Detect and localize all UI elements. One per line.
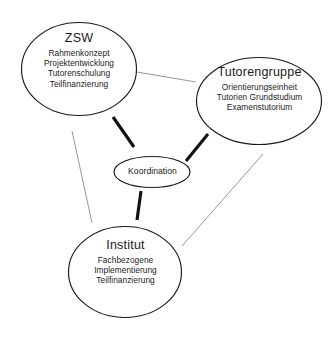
node-koordination[interactable]: Koordination [114, 166, 191, 176]
node-zsw-detail-3: Tutorenschulung [22, 68, 136, 78]
node-institut[interactable]: Institut Fachbezogene Implementierung Te… [68, 238, 183, 286]
node-tutorengruppe[interactable]: Tutorengruppe Orientierungseinheit Tutor… [196, 65, 323, 113]
node-zsw-detail-1: Rahmenkonzept [22, 48, 136, 58]
node-institut-details: Fachbezogene Implementierung Teilfinanzi… [68, 255, 183, 286]
node-institut-detail-3: Teilfinanzierung [68, 275, 183, 285]
node-institut-detail-1: Fachbezogene [68, 255, 183, 265]
node-tutorengruppe-details: Orientierungseinheit Tutorien Grundstudi… [196, 82, 323, 113]
node-tutorengruppe-title: Tutorengruppe [196, 65, 323, 80]
link-zsw-tutorengruppe [137, 72, 196, 82]
diagram-canvas: ZSW Rahmenkonzept Projektentwicklung Tut… [0, 0, 329, 337]
node-zsw[interactable]: ZSW Rahmenkonzept Projektentwicklung Tut… [22, 31, 136, 89]
node-institut-detail-2: Implementierung [68, 265, 183, 275]
link-zsw-institut [72, 131, 92, 223]
link-tutorengruppe-koordination [186, 134, 208, 161]
link-zsw-koordination [113, 117, 134, 147]
node-zsw-title: ZSW [22, 31, 136, 46]
node-tutorengruppe-detail-3: Examenstutorium [196, 102, 323, 112]
node-institut-title: Institut [68, 238, 183, 253]
node-zsw-detail-2: Projektentwicklung [22, 58, 136, 68]
node-zsw-detail-4: Teilfinanzierung [22, 79, 136, 89]
node-koordination-title: Koordination [114, 166, 191, 176]
node-zsw-details: Rahmenkonzept Projektentwicklung Tutoren… [22, 48, 136, 89]
link-tutorengruppe-institut [182, 154, 263, 246]
node-tutorengruppe-detail-2: Tutorien Grundstudium [196, 92, 323, 102]
node-tutorengruppe-detail-1: Orientierungseinheit [196, 82, 323, 92]
link-institut-koordination [137, 191, 141, 220]
